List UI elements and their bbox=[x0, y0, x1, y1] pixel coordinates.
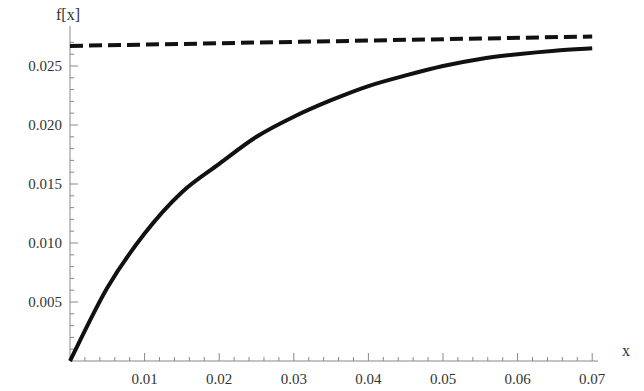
x-tick-label: 0.02 bbox=[206, 371, 232, 387]
x-axis-label: x bbox=[622, 342, 630, 359]
x-tick-label: 0.01 bbox=[131, 371, 157, 387]
y-tick-label: 0.005 bbox=[28, 294, 62, 310]
y-tick-label: 0.020 bbox=[28, 117, 62, 133]
series-group bbox=[70, 37, 592, 362]
y-tick-label: 0.015 bbox=[28, 176, 62, 192]
x-tick-label: 0.03 bbox=[281, 371, 307, 387]
line-chart: 0.0050.0100.0150.0200.025 0.010.020.030.… bbox=[0, 0, 644, 391]
x-tick-label: 0.06 bbox=[504, 371, 531, 387]
y-axis-label: f[x] bbox=[56, 6, 80, 23]
solid-series-line bbox=[70, 48, 592, 361]
dashed-series-line bbox=[70, 37, 592, 46]
y-tick-label: 0.010 bbox=[28, 235, 62, 251]
y-axis: 0.0050.0100.0150.0200.025 bbox=[28, 26, 78, 361]
x-tick-label: 0.07 bbox=[579, 371, 606, 387]
y-tick-label: 0.025 bbox=[28, 58, 62, 74]
x-axis: 0.010.020.030.040.050.060.07 bbox=[70, 353, 606, 387]
x-tick-label: 0.05 bbox=[430, 371, 456, 387]
x-tick-label: 0.04 bbox=[355, 371, 382, 387]
